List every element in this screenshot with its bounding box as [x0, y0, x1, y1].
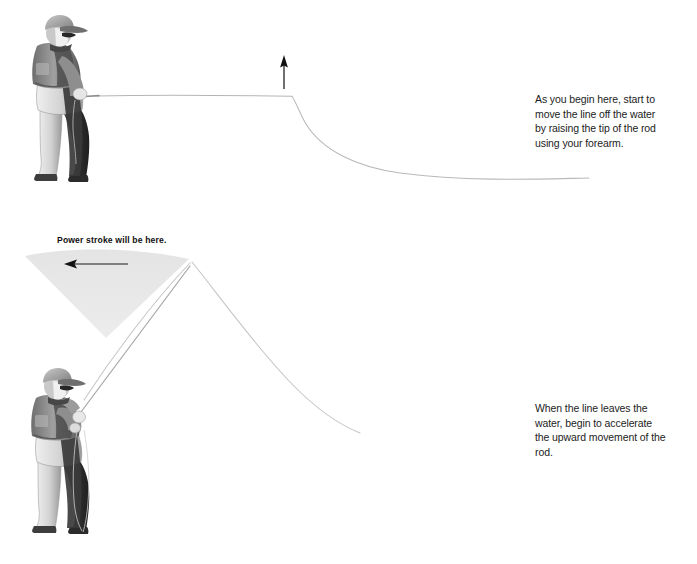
illustration-stage: Power stroke will be here. As you begin … [0, 0, 697, 564]
fly-line-top [97, 95, 589, 179]
panel-bottom-group [25, 250, 360, 534]
power-stroke-wedge [25, 250, 189, 338]
angler-figure-top [32, 15, 99, 182]
caption-acceleration-phase: When the line leaves the water, begin to… [535, 401, 667, 459]
angler-figure-bottom [31, 368, 89, 534]
power-stroke-label: Power stroke will be here. [57, 235, 166, 245]
fly-cast-illustration [0, 0, 697, 564]
caption-pickup-phase: As you begin here, start to move the lin… [535, 92, 667, 150]
panel-top-group [32, 15, 589, 182]
up-arrow-icon [280, 55, 288, 89]
